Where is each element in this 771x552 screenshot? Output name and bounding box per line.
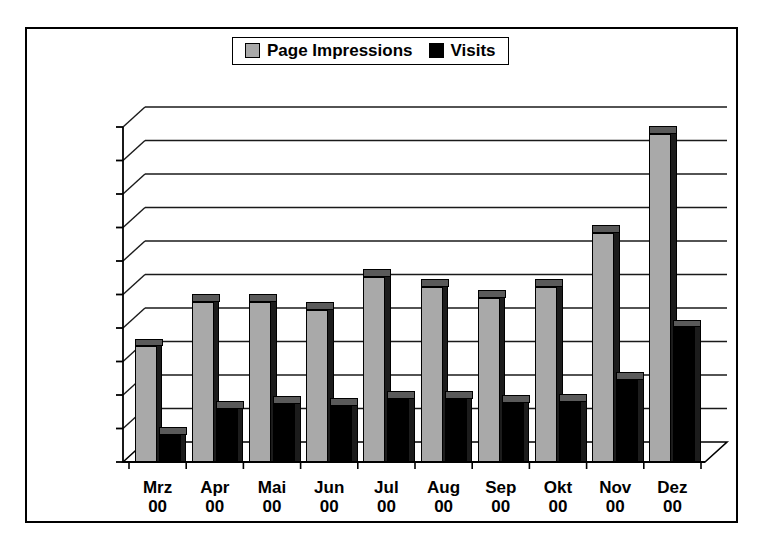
x-axis-year: 00 — [644, 497, 701, 516]
x-axis-tick-label: Mai00 — [243, 478, 300, 516]
x-axis-tick-label: Nov00 — [587, 478, 644, 516]
x-axis-month: Jun — [314, 478, 344, 497]
chart-frame: 10.000,009.000,008.000,007.000,006.000,0… — [25, 27, 738, 523]
legend-entry-page-impressions: Page Impressions — [245, 42, 413, 59]
x-axis-year: 00 — [358, 497, 415, 516]
legend-label-page-impressions: Page Impressions — [267, 42, 413, 59]
x-axis-month: Sep — [485, 478, 516, 497]
x-axis-year: 00 — [472, 497, 529, 516]
x-axis-tick-label: Okt00 — [529, 478, 586, 516]
x-axis-month: Apr — [200, 478, 229, 497]
x-axis-month: Jul — [374, 478, 399, 497]
x-axis-year: 00 — [301, 497, 358, 516]
x-axis-month: Mai — [258, 478, 286, 497]
x-axis-month: Mrz — [143, 478, 172, 497]
x-axis-tick-label: Dez00 — [644, 478, 701, 516]
gray-square-icon — [245, 43, 260, 58]
black-square-icon — [429, 43, 444, 58]
x-axis-tick-label: Apr00 — [186, 478, 243, 516]
x-axis-year: 00 — [415, 497, 472, 516]
x-axis-tick-label: Jul00 — [358, 478, 415, 516]
x-axis-tick-label: Mrz00 — [129, 478, 186, 516]
x-axis-year: 00 — [529, 497, 586, 516]
chart-legend: Page Impressions Visits — [232, 37, 509, 65]
x-axis-year: 00 — [129, 497, 186, 516]
x-axis-month: Aug — [427, 478, 460, 497]
x-axis-year: 00 — [243, 497, 300, 516]
legend-entry-visits: Visits — [429, 42, 496, 59]
x-axis-month: Dez — [657, 478, 687, 497]
x-axis-tick-label: Aug00 — [415, 478, 472, 516]
x-axis-month: Nov — [599, 478, 631, 497]
plot-area: 10.000,009.000,008.000,007.000,006.000,0… — [27, 29, 740, 525]
x-axis-tick-labels: Mrz00Apr00Mai00Jun00Jul00Aug00Sep00Okt00… — [27, 29, 740, 525]
x-axis-month: Okt — [544, 478, 572, 497]
legend-label-visits: Visits — [451, 42, 496, 59]
x-axis-tick-label: Jun00 — [301, 478, 358, 516]
x-axis-year: 00 — [186, 497, 243, 516]
x-axis-year: 00 — [587, 497, 644, 516]
x-axis-tick-label: Sep00 — [472, 478, 529, 516]
